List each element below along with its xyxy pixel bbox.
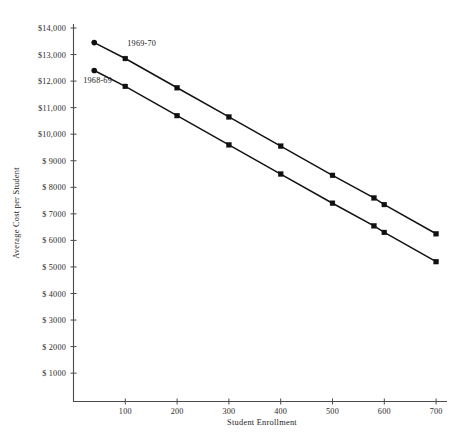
y-tick-label: $11,000 — [38, 104, 66, 113]
y-axis-ticks: $ 1000$ 2000$ 3000$ 4000$ 5000$ 6000$ 70… — [38, 24, 77, 378]
y-tick-label: $10,000 — [38, 130, 66, 139]
y-axis-title: Average Cost per Student — [12, 167, 21, 259]
data-point — [175, 113, 180, 118]
data-point — [227, 115, 232, 120]
y-tick-label: $ 6000 — [42, 236, 66, 245]
y-tick-label: $ 8000 — [42, 183, 66, 192]
x-tick-label: 400 — [274, 407, 287, 416]
y-tick-label: $14,000 — [38, 24, 66, 33]
x-tick-label: 300 — [222, 407, 235, 416]
y-tick-label: $ 2000 — [42, 343, 66, 352]
data-point — [382, 230, 387, 235]
data-point — [278, 144, 283, 149]
data-point — [330, 173, 335, 178]
y-tick-label: $ 1000 — [42, 369, 66, 378]
series-1969-70 — [91, 40, 438, 236]
y-tick-label: $ 9000 — [42, 157, 66, 166]
y-tick-label: $ 3000 — [42, 316, 66, 325]
data-point — [372, 223, 377, 228]
line-chart: $ 1000$ 2000$ 3000$ 4000$ 5000$ 6000$ 70… — [0, 0, 460, 445]
series-layer — [91, 40, 438, 264]
y-tick-label: $ 4000 — [42, 290, 66, 299]
y-tick-label: $12,000 — [38, 77, 66, 86]
data-point — [91, 40, 97, 46]
x-tick-label: 200 — [171, 407, 184, 416]
series-label-1969-70: 1969-70 — [127, 39, 156, 48]
data-point — [382, 202, 387, 207]
series-annotations: 1969-701968-69 — [83, 39, 156, 85]
data-point — [434, 259, 439, 264]
data-point — [372, 196, 377, 201]
x-tick-label: 700 — [430, 407, 443, 416]
y-tick-label: $13,000 — [38, 51, 66, 60]
x-tick-label: 100 — [119, 407, 132, 416]
y-tick-label: $ 7000 — [42, 210, 66, 219]
series-label-1968-69: 1968-69 — [83, 76, 112, 85]
data-point — [434, 231, 439, 236]
chart-container: $ 1000$ 2000$ 3000$ 4000$ 5000$ 6000$ 70… — [0, 0, 460, 445]
data-point — [278, 172, 283, 177]
data-point — [123, 84, 128, 89]
x-tick-label: 600 — [378, 407, 391, 416]
data-point — [91, 68, 97, 74]
data-point — [227, 142, 232, 147]
series-1968-69 — [91, 68, 438, 264]
y-tick-label: $ 5000 — [42, 263, 66, 272]
data-point — [330, 201, 335, 206]
data-point — [123, 56, 128, 61]
data-point — [175, 85, 180, 90]
x-axis-title: Student Enrollment — [227, 418, 297, 427]
x-tick-label: 500 — [326, 407, 339, 416]
